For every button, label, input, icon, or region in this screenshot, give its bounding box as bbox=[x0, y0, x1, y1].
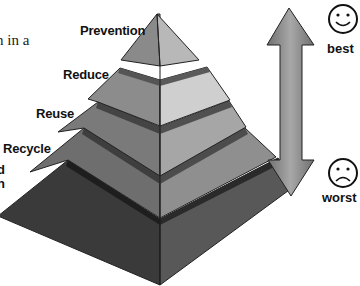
clipped-label-line-1: d bbox=[0, 162, 5, 177]
label-recycle: Recycle bbox=[3, 141, 51, 156]
best-worst-arrow bbox=[267, 8, 314, 196]
sad-face-icon bbox=[329, 159, 357, 187]
pyramid-graphic bbox=[0, 0, 360, 286]
label-best: best bbox=[327, 41, 354, 56]
waste-hierarchy-diagram: n in a d n Prevention Reduce Reuse Recyc… bbox=[0, 0, 360, 286]
label-prevention: Prevention bbox=[80, 23, 145, 38]
smiley-face-icon bbox=[329, 5, 357, 33]
label-reduce: Reduce bbox=[63, 67, 109, 82]
pyramid-level-prevention bbox=[121, 14, 199, 66]
clipped-body-text: n in a bbox=[0, 32, 29, 49]
label-reuse: Reuse bbox=[36, 106, 74, 121]
clipped-label-line-2: n bbox=[0, 176, 5, 191]
label-worst: worst bbox=[322, 190, 357, 205]
